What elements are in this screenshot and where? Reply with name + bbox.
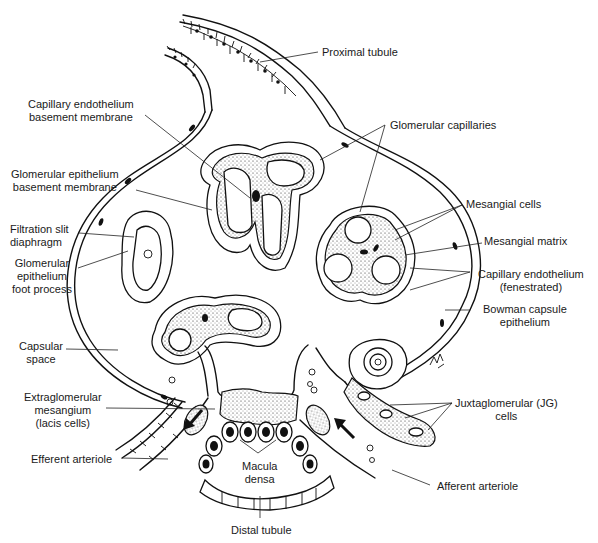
- label-filtration-slit-diaphragm: Filtration slit diaphragm: [10, 223, 69, 249]
- capillary-loop-upper-center: [201, 142, 324, 270]
- signature: [430, 354, 444, 368]
- capillary-loop-lower: [152, 295, 281, 364]
- afferent-flow-arrow: [334, 418, 354, 438]
- label-extraglomerular-mesangium: Extraglomerular mesangium (lacis cells): [24, 391, 102, 430]
- label-afferent-arteriole: Afferent arteriole: [437, 480, 518, 493]
- capillary-loop-bottom-right: [349, 340, 406, 389]
- capillary-loop-left: [122, 211, 173, 302]
- proximal-tubule: [165, 15, 345, 128]
- renal-corpuscle-diagram: Proximal tubule Capillary endothelium ba…: [0, 0, 598, 543]
- label-bowman-capsule-epithelium: Bowman capsule epithelium: [483, 303, 567, 329]
- label-glomerular-capillaries: Glomerular capillaries: [390, 119, 496, 132]
- label-macula-densa: Macula densa: [242, 460, 277, 486]
- label-capillary-endothelium-basement-membrane: Capillary endothelium basement membrane: [28, 98, 134, 124]
- label-distal-tubule: Distal tubule: [231, 524, 292, 537]
- label-capillary-endothelium-fenestrated: Capillary endothelium (fenestrated): [478, 268, 584, 294]
- label-proximal-tubule: Proximal tubule: [322, 46, 398, 59]
- label-glomerular-epithelium-basement-membrane: Glomerular epithelium basement membrane: [11, 168, 119, 194]
- label-mesangial-matrix: Mesangial matrix: [484, 235, 567, 248]
- label-glomerular-epithelium-foot-process: Glomerular epithelium foot process: [12, 257, 72, 296]
- label-efferent-arteriole: Efferent arteriole: [31, 453, 112, 466]
- label-mesangial-cells: Mesangial cells: [466, 198, 541, 211]
- macula-densa-distal-tubule: [179, 389, 334, 510]
- capillary-loop-right: [316, 206, 414, 303]
- label-capsular-space: Capsular space: [19, 340, 63, 366]
- label-juxtaglomerular-cells: Juxtaglomerular (JG) cells: [455, 397, 558, 423]
